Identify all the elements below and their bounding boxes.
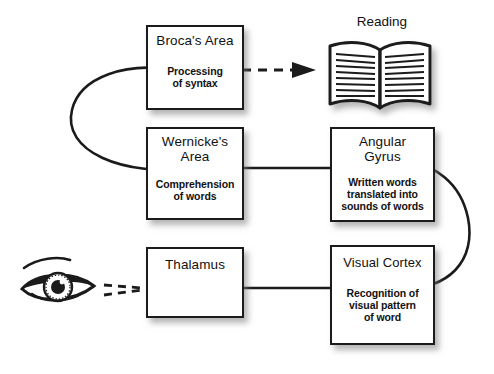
node-description-visual-cortex: Recognition of visual pattern of word [332,287,433,323]
desc-line: of syntax [148,77,242,89]
diagram-canvas: Reading Broca's Area Processing of synta… [0,0,494,374]
desc-line: visual pattern [332,299,433,311]
node-thalamus[interactable]: Thalamus [146,247,244,318]
arrowhead-to-reading [292,62,316,78]
connector-eye-to-thalamus-lower [104,290,142,295]
desc-line: Written words [332,176,433,188]
connector-eye-to-thalamus-upper [104,285,142,288]
desc-line: Comprehension [148,178,242,190]
node-title-thalamus: Thalamus [148,249,242,272]
title-line: Gyrus [332,149,433,164]
open-book-icon [330,43,430,108]
title-line: Area [148,149,242,164]
desc-line: translated into [332,188,433,200]
desc-line: sounds of words [332,200,433,212]
node-angular-gyrus[interactable]: Angular Gyrus Written words translated i… [330,127,435,222]
node-description-wernickes-area: Comprehension of words [148,178,242,202]
desc-line: of words [148,190,242,202]
node-title-brocas-area: Broca's Area [148,27,242,48]
node-title-wernickes-area: Wernicke's Area [148,129,242,164]
node-title-visual-cortex: Visual Cortex [332,247,433,270]
desc-line: Recognition of [332,287,433,299]
title-line: Wernicke's [148,134,242,149]
node-description-angular-gyrus: Written words translated into sounds of … [332,176,433,212]
desc-line: of word [332,311,433,323]
node-description-brocas-area: Processing of syntax [148,65,242,89]
node-wernickes-area[interactable]: Wernicke's Area Comprehension of words [146,127,244,220]
node-visual-cortex[interactable]: Visual Cortex Recognition of visual patt… [330,245,435,345]
desc-line: Processing [148,65,242,77]
reading-label: Reading [330,14,434,29]
node-brocas-area[interactable]: Broca's Area Processing of syntax [146,25,244,110]
node-title-angular-gyrus: Angular Gyrus [332,129,433,164]
title-line: Angular [332,134,433,149]
eye-icon [22,258,94,301]
